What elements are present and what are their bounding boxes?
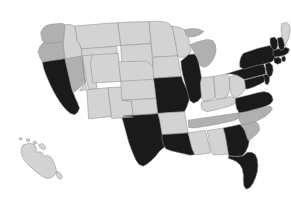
state-oregon[interactable]: [38, 42, 65, 62]
state-colorado[interactable]: [90, 53, 120, 83]
state-nebraska[interactable]: [118, 61, 155, 83]
state-shapes-group: [19, 21, 290, 189]
state-washington[interactable]: [41, 23, 65, 43]
state-arizona[interactable]: [87, 88, 112, 119]
state-tennessee[interactable]: [188, 113, 240, 128]
state-florida[interactable]: [228, 152, 258, 189]
state-montana[interactable]: [75, 23, 121, 49]
state-indiana[interactable]: [200, 76, 215, 101]
state-kansas[interactable]: [121, 79, 157, 100]
state-arkansas[interactable]: [158, 112, 188, 135]
us-map-svg: [0, 0, 291, 209]
state-north-dakota[interactable]: [118, 22, 151, 46]
us-choropleth-map: [0, 0, 291, 209]
state-rhode-island[interactable]: [282, 56, 286, 62]
state-iowa[interactable]: [153, 56, 182, 78]
state-ohio[interactable]: [214, 74, 230, 100]
state-connecticut[interactable]: [274, 57, 282, 64]
